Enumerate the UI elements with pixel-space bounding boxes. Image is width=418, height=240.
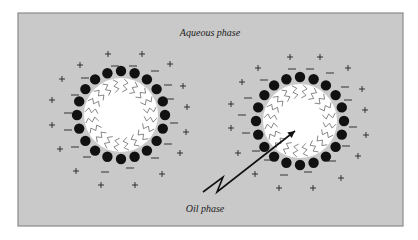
surfactant-head [269,151,279,161]
surfactant-head [321,151,331,161]
surfactant-head [321,80,331,90]
surfactant-head [102,68,112,78]
surfactant-head [80,84,90,94]
surfactant-head [74,123,84,133]
surfactant-head [337,102,347,112]
surfactant-head [160,110,170,120]
surfactant-head [259,142,269,152]
surfactant-head [80,136,90,146]
surfactant-head [281,158,291,168]
surfactant-head [129,68,139,78]
surfactant-head [158,96,168,106]
surfactant-head [90,74,100,84]
aqueous-phase-label: Aqueous phase [179,27,241,38]
oil-core [84,78,158,152]
surfactant-head [308,74,318,84]
surfactant-head [259,90,269,100]
surfactant-head [251,116,261,126]
surfactant-head [116,154,126,164]
surfactant-head [158,123,168,133]
surfactant-head [90,145,100,155]
surfactant-head [330,90,340,100]
oil-phase-label: Oil phase [186,203,225,214]
surfactant-head [308,158,318,168]
surfactant-head [129,152,139,162]
surfactant-head [269,80,279,90]
surfactant-head [330,142,340,152]
surfactant-head [337,129,347,139]
surfactant-head [142,74,152,84]
surfactant-head [72,110,82,120]
surfactant-head [142,145,152,155]
surfactant-head [295,160,305,170]
surfactant-head [253,129,263,139]
surfactant-head [295,72,305,82]
surfactant-head [339,116,349,126]
surfactant-head [102,152,112,162]
surfactant-head [116,66,126,76]
surfactant-head [281,74,291,84]
surfactant-head [74,96,84,106]
surfactant-head [151,84,161,94]
diagram-canvas: Aqueous phase Oil phase [0,0,418,240]
surfactant-head [151,136,161,146]
surfactant-head [253,102,263,112]
